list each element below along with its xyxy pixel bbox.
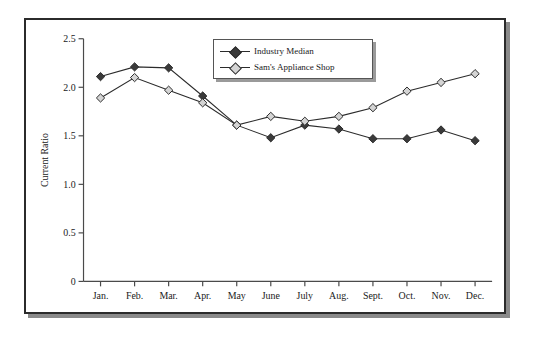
data-point-industry-median [267,134,275,142]
x-tick-label: May [228,290,246,301]
x-tick-label: Jan. [93,290,109,301]
data-point-sams-appliance-shop [471,70,479,78]
x-tick-label: Mar. [159,290,177,301]
data-point-sams-appliance-shop [199,99,207,107]
x-tick-label: Nov. [432,290,451,301]
diamond-marker-icon [220,45,250,57]
data-point-sams-appliance-shop [130,73,138,81]
data-point-sams-appliance-shop [369,104,377,112]
data-point-industry-median [130,63,138,71]
legend-item-sams-appliance-shop: Sam's Appliance Shop [220,59,366,75]
x-tick-label: July [297,290,314,301]
y-tick-label: 2.0 [63,82,75,93]
data-point-industry-median [403,135,411,143]
x-tick-label: Aug. [329,290,349,301]
data-point-sams-appliance-shop [267,112,275,120]
data-point-industry-median [96,72,104,80]
legend-label: Industry Median [254,46,314,56]
data-point-sams-appliance-shop [96,94,104,102]
y-axis-title: Current Ratio [39,133,50,187]
x-tick-label: Sept. [363,290,383,301]
y-tick-label: 0.5 [63,227,75,238]
data-point-sams-appliance-shop [403,87,411,95]
data-point-industry-median [335,125,343,133]
chart-page: 00.51.01.52.02.5Jan.Feb.Mar.Apr.MayJuneJ… [0,0,538,338]
x-tick-label: June [262,290,281,301]
data-point-sams-appliance-shop [335,112,343,120]
figure-frame: 00.51.01.52.02.5Jan.Feb.Mar.Apr.MayJuneJ… [24,18,506,314]
data-point-sams-appliance-shop [164,86,172,94]
x-tick-label: Apr. [194,290,211,301]
legend-label: Sam's Appliance Shop [254,62,335,72]
y-tick-label: 2.5 [63,33,75,44]
y-tick-label: 0 [71,276,76,287]
x-tick-label: Dec. [466,290,484,301]
x-tick-label: Feb. [126,290,143,301]
y-tick-label: 1.0 [63,179,75,190]
data-point-industry-median [369,135,377,143]
diamond-marker-icon [220,61,250,73]
chart-legend: Industry Median Sam's Appliance Shop [213,39,373,79]
data-point-sams-appliance-shop [437,78,445,86]
y-tick-label: 1.5 [63,130,75,141]
data-point-industry-median [437,126,445,134]
x-tick-label: Oct. [399,290,416,301]
legend-item-industry-median: Industry Median [220,43,366,59]
data-point-industry-median [471,137,479,145]
